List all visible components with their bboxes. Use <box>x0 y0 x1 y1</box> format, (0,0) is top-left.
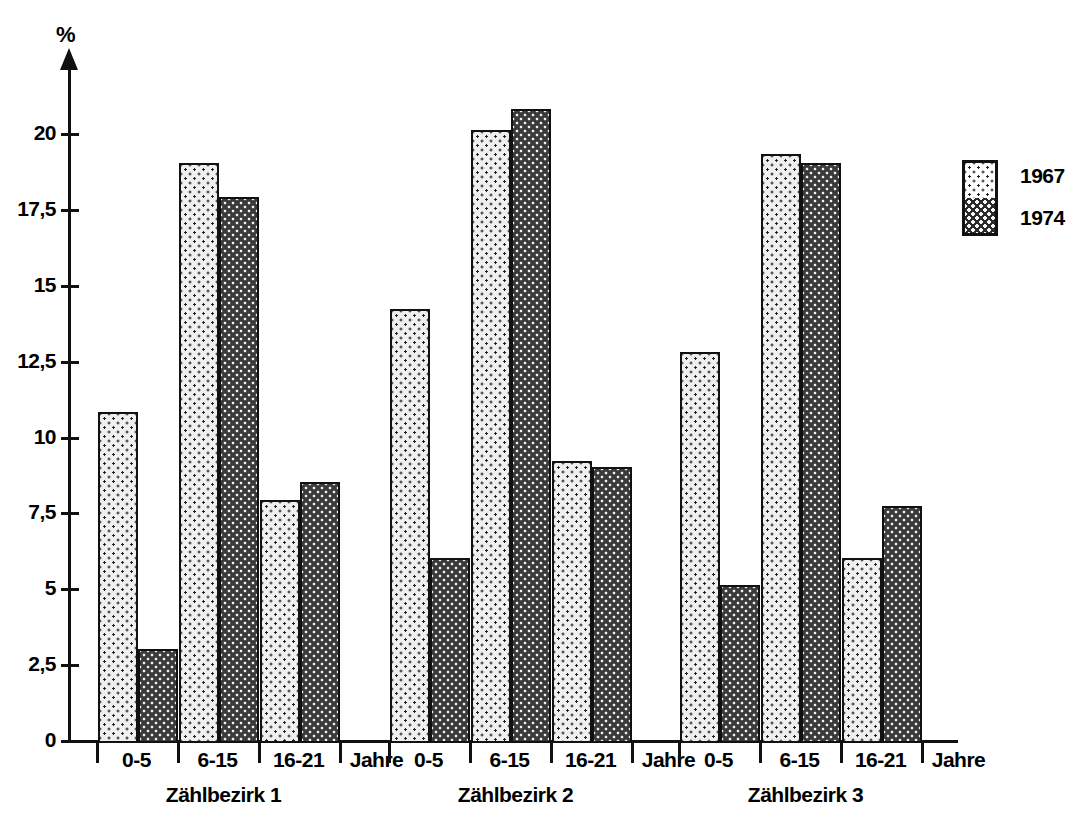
bar <box>761 154 801 743</box>
bar-chart: % 02,557,51012,51517,520 0-56-1516-21Jah… <box>0 0 1091 823</box>
y-axis-tick-label: 17,5 <box>0 197 56 221</box>
bar <box>592 467 632 743</box>
x-axis-group-label: Zählbezirk 2 <box>458 783 573 807</box>
x-axis-tick <box>631 741 634 763</box>
x-axis-group-label: Zählbezirk 3 <box>748 783 863 807</box>
x-axis-tick <box>258 741 261 763</box>
x-axis-tick <box>921 741 924 763</box>
x-axis-category-label: 6-15 <box>779 748 819 772</box>
x-axis-tick <box>177 741 180 763</box>
bar <box>98 412 138 743</box>
x-axis-unit-label: Jahre <box>642 748 696 772</box>
x-axis-category-label: 16-21 <box>273 748 324 772</box>
x-axis-category-label: 0-5 <box>122 748 151 772</box>
x-axis-category-label: 6-15 <box>197 748 237 772</box>
x-axis-tick <box>550 741 553 763</box>
y-axis-tick-label: 0 <box>0 728 56 752</box>
legend-label-1967: 1967 <box>1020 164 1065 188</box>
legend-label-1974: 1974 <box>1020 206 1065 230</box>
y-axis-tick-label: 7,5 <box>0 500 56 524</box>
x-axis-tick <box>469 741 472 763</box>
legend-swatch <box>962 160 998 236</box>
plot-area <box>68 62 958 743</box>
x-axis-tick <box>678 741 681 763</box>
legend-swatch-1974 <box>965 198 995 233</box>
x-axis-tick <box>388 741 391 763</box>
x-axis-unit-label: Jahre <box>350 748 404 772</box>
bar <box>300 482 340 743</box>
bar <box>430 558 470 743</box>
y-axis-tick-label: 15 <box>0 273 56 297</box>
legend-swatch-1967 <box>965 163 995 198</box>
y-axis-tick-label: 12,5 <box>0 349 56 373</box>
bar <box>842 558 882 743</box>
x-axis-tick <box>96 741 99 763</box>
x-axis-tick <box>759 741 762 763</box>
bar <box>471 130 511 743</box>
y-axis-tick-label: 5 <box>0 576 56 600</box>
x-axis-category-label: 0-5 <box>414 748 443 772</box>
bar <box>552 461 592 743</box>
y-axis-tick-label: 2,5 <box>0 652 56 676</box>
bar <box>179 163 219 743</box>
bar <box>390 309 430 743</box>
y-axis-unit-label: % <box>56 22 75 48</box>
bar <box>680 352 720 744</box>
x-axis-group-label: Zählbezirk 1 <box>166 783 281 807</box>
bar <box>260 500 300 743</box>
x-axis-tick <box>339 741 342 763</box>
bar <box>720 585 760 743</box>
bar <box>511 109 551 743</box>
y-axis-tick-label: 20 <box>0 121 56 145</box>
bar <box>138 649 178 743</box>
y-axis-tick-label: 10 <box>0 425 56 449</box>
bar <box>219 197 259 743</box>
x-axis-category-label: 0-5 <box>704 748 733 772</box>
x-axis-category-label: 6-15 <box>489 748 529 772</box>
x-axis-category-label: 16-21 <box>565 748 616 772</box>
x-axis-tick <box>840 741 843 763</box>
bar <box>882 506 922 743</box>
bar <box>801 163 841 743</box>
x-axis-category-label: 16-21 <box>855 748 906 772</box>
x-axis-unit-label: Jahre <box>932 748 986 772</box>
